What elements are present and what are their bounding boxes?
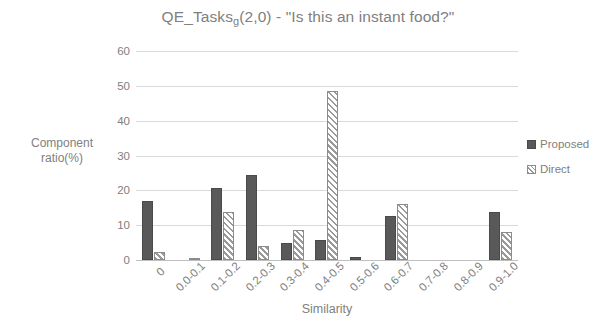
bar-chart: QE_Tasksg(2,0) - "Is this an instant foo… [0,0,616,330]
y-axis-tick-label: 10 [100,219,130,231]
bar-group [310,51,345,260]
bar-proposed[interactable] [315,240,326,260]
y-axis-tick-label: 0 [100,254,130,266]
bar-proposed[interactable] [489,212,500,260]
chart-title-main-after: (2,0) - "Is this an instant food?" [239,8,454,25]
x-axis-tick-label: 0.6-0.7 [382,260,416,294]
x-axis-baseline [136,260,518,261]
y-axis-tick-label: 20 [100,184,130,196]
legend-item-direct[interactable]: Direct [527,163,609,175]
x-axis-tick-label: 0.4-0.5 [313,260,347,294]
bar-group [240,51,275,260]
x-axis-label: Similarity [136,302,518,316]
bar-direct[interactable] [501,232,512,260]
y-axis-label-line1: Component [16,136,108,151]
bar-group [136,51,171,260]
bar-group [483,51,518,260]
y-axis-tick-label: 60 [100,45,130,57]
bar-group [414,51,449,260]
x-axis-tick-label: 0.8-0.9 [451,260,485,294]
x-axis-tick-label: 0.0-0.1 [174,260,208,294]
x-axis-tick-label: 0.9-1.0 [486,260,520,294]
legend-label: Proposed [540,138,589,150]
y-axis-label-line2: ratio(%) [16,151,108,166]
bar-group [275,51,310,260]
x-axis-tick-label: 0.3-0.4 [278,260,312,294]
legend-swatch-proposed-icon [527,140,536,149]
bar-group [379,51,414,260]
y-axis-tick-label: 30 [100,150,130,162]
legend-label: Direct [540,163,570,175]
plot-area [136,51,518,260]
bar-proposed[interactable] [246,175,257,260]
bar-direct[interactable] [154,252,165,260]
legend-swatch-direct-icon [527,165,536,174]
legend-item-proposed[interactable]: Proposed [527,138,609,150]
bar-direct[interactable] [293,230,304,260]
chart-title: QE_Tasksg(2,0) - "Is this an instant foo… [0,8,616,27]
bar-proposed[interactable] [211,188,222,260]
bar-group [344,51,379,260]
y-axis-label: Component ratio(%) [16,136,108,166]
bar-direct[interactable] [327,91,338,260]
bar-direct[interactable] [258,246,269,260]
bar-group [449,51,484,260]
chart-legend: ProposedDirect [527,138,609,188]
bar-proposed[interactable] [385,216,396,260]
x-axis-tick-label: 0.1-0.2 [208,260,242,294]
x-axis-tick-label: 0.5-0.6 [347,260,381,294]
bar-group [171,51,206,260]
y-axis-tick-label: 40 [100,115,130,127]
bar-proposed[interactable] [281,243,292,260]
x-axis-tick-label: 0.7-0.8 [417,260,451,294]
x-axis-tick-label: 0.2-0.3 [243,260,277,294]
x-axis-tick-label: 0 [154,265,167,278]
bar-group [205,51,240,260]
bar-proposed[interactable] [142,201,153,260]
y-axis-ticks: 0102030405060 [96,51,130,261]
chart-title-main-before: QE_Tasks [162,8,233,25]
bar-direct[interactable] [397,204,408,260]
y-axis-tick-label: 50 [100,80,130,92]
bar-direct[interactable] [223,212,234,260]
